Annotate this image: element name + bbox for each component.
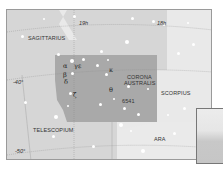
star (54, 115, 58, 119)
dec-label-minus40: -40° (13, 80, 23, 86)
label-scorpius: SCORPIUS (161, 91, 191, 97)
dec-label-minus50: -50° (15, 149, 25, 155)
star (100, 50, 103, 53)
star (113, 98, 115, 100)
star (173, 132, 176, 135)
star (187, 22, 189, 24)
star (147, 88, 149, 90)
star (131, 17, 134, 20)
ra-label-19h: 19h (79, 21, 88, 27)
star (92, 145, 95, 148)
star (52, 135, 55, 138)
star (73, 15, 76, 18)
star (67, 105, 69, 107)
star (125, 40, 129, 44)
star (82, 58, 85, 61)
star (21, 35, 24, 38)
star (107, 59, 109, 61)
label-ara: ARA (154, 137, 166, 143)
star (99, 103, 102, 106)
star (123, 107, 126, 110)
star-label-alpha: α (63, 63, 67, 70)
label-telescopium: TELESCOPIUM (33, 128, 74, 134)
star (71, 72, 74, 75)
star (57, 53, 60, 56)
label-ngc-6541: 6541 (122, 99, 135, 105)
star-chart: SAGITTARIUS CORONA AUSTRALIS SCORPIUS TE… (6, 9, 212, 160)
star (24, 101, 27, 104)
star-label-epsilon: ε (78, 63, 81, 70)
star (137, 113, 140, 116)
inset-panel (196, 108, 223, 164)
ra-label-18h: 18h (157, 21, 166, 27)
star (43, 18, 45, 20)
star (105, 73, 108, 76)
star (192, 43, 195, 46)
label-corona-australis-line2: AUSTRALIS (124, 81, 155, 87)
star (152, 20, 155, 23)
star-label-zeta: ζ (73, 92, 77, 99)
label-sagittarius: SAGITTARIUS (28, 36, 65, 42)
star (141, 149, 145, 153)
star (130, 130, 132, 132)
star-label-theta: θ (109, 87, 113, 94)
star (183, 107, 186, 110)
star (119, 123, 123, 127)
star (167, 114, 169, 116)
star-label-delta: δ (64, 79, 68, 86)
constellation-regions (7, 10, 212, 160)
star (177, 52, 180, 55)
star-label-kappa: κ (109, 67, 113, 74)
star (69, 92, 72, 95)
star (96, 64, 99, 67)
